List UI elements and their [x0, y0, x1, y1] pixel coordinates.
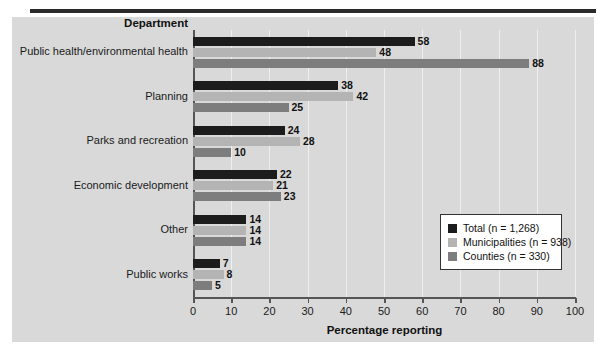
bar — [193, 103, 289, 112]
bar — [193, 148, 231, 157]
bar-value-label: 14 — [249, 226, 261, 235]
x-tick — [308, 298, 310, 303]
bar — [193, 226, 246, 235]
x-tick-label: 50 — [378, 305, 390, 317]
bar-value-label: 7 — [223, 259, 229, 268]
bar-value-label: 8 — [227, 270, 233, 279]
category-label: Parks and recreation — [0, 134, 188, 146]
gridline — [346, 30, 347, 297]
x-axis-title: Percentage reporting — [193, 324, 576, 336]
bar-value-label: 21 — [276, 181, 288, 190]
category-label: Public health/environmental health — [0, 45, 188, 57]
x-tick-label: 10 — [225, 305, 237, 317]
x-tick — [193, 298, 195, 303]
bar-value-label: 22 — [280, 170, 292, 179]
bar — [193, 237, 246, 246]
x-tick-label: 80 — [492, 305, 504, 317]
x-tick-label: 100 — [566, 305, 584, 317]
x-tick-label: 60 — [416, 305, 428, 317]
gridline — [422, 30, 423, 297]
bar — [193, 259, 220, 268]
gridline — [308, 30, 309, 297]
x-tick — [422, 298, 424, 303]
legend-item: Counties (n = 330) — [448, 250, 555, 262]
bar-value-label: 28 — [303, 137, 315, 146]
legend-swatch-icon — [448, 238, 457, 247]
bar-value-label: 14 — [249, 237, 261, 246]
bar — [193, 48, 376, 57]
category-label: Planning — [0, 90, 188, 102]
bar-value-label: 14 — [249, 215, 261, 224]
bar-value-label: 5 — [215, 281, 221, 290]
legend-label: Counties (n = 330) — [463, 250, 550, 262]
x-tick — [231, 298, 233, 303]
x-tick — [346, 298, 348, 303]
legend-label: Total (n = 1,268) — [463, 222, 539, 234]
bar-value-label: 23 — [284, 192, 296, 201]
x-tick-label: 0 — [190, 305, 196, 317]
bar — [193, 59, 529, 68]
bar-value-label: 24 — [288, 126, 300, 135]
bar-value-label: 48 — [379, 48, 391, 57]
x-tick — [460, 298, 462, 303]
x-tick — [575, 298, 577, 303]
category-label: Economic development — [0, 179, 188, 191]
x-tick-label: 20 — [263, 305, 275, 317]
top-rule — [30, 9, 596, 13]
bar-value-label: 10 — [234, 148, 246, 157]
x-tick — [537, 298, 539, 303]
gridline — [231, 30, 232, 297]
bar-value-label: 42 — [356, 92, 368, 101]
bar — [193, 81, 338, 90]
bar — [193, 137, 300, 146]
bar — [193, 181, 273, 190]
gridline — [384, 30, 385, 297]
x-tick-label: 40 — [340, 305, 352, 317]
legend-label: Municipalities (n = 938) — [463, 236, 571, 248]
bar — [193, 281, 212, 290]
chart-figure: Department 0102030405060708090100 Public… — [0, 0, 606, 356]
gridline — [269, 30, 270, 297]
legend: Total (n = 1,268)Municipalities (n = 938… — [440, 214, 562, 270]
legend-swatch-icon — [448, 224, 457, 233]
bar-value-label: 38 — [341, 81, 353, 90]
legend-item: Municipalities (n = 938) — [448, 236, 555, 248]
x-tick — [269, 298, 271, 303]
bar — [193, 126, 285, 135]
bar — [193, 192, 281, 201]
bar — [193, 37, 415, 46]
x-tick-label: 70 — [454, 305, 466, 317]
y-axis-header: Department — [0, 17, 188, 29]
bar-value-label: 88 — [532, 59, 544, 68]
bar — [193, 215, 246, 224]
bar — [193, 270, 224, 279]
x-tick — [384, 298, 386, 303]
legend-item: Total (n = 1,268) — [448, 222, 555, 234]
category-label: Other — [0, 223, 188, 235]
bar-value-label: 25 — [292, 103, 304, 112]
bar — [193, 92, 353, 101]
x-tick — [499, 298, 501, 303]
legend-swatch-icon — [448, 252, 457, 261]
category-label: Public works — [0, 268, 188, 280]
x-tick-label: 30 — [301, 305, 313, 317]
bar-value-label: 58 — [418, 37, 430, 46]
gridline — [575, 30, 576, 297]
y-axis-line — [193, 30, 195, 298]
bar — [193, 170, 277, 179]
x-tick-label: 90 — [531, 305, 543, 317]
